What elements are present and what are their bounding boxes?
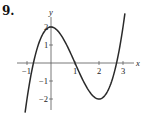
tick-labels: xy−1123−2−112	[22, 7, 140, 104]
y-tick-label: −1	[39, 76, 48, 86]
x-axis-label: x	[135, 58, 140, 68]
y-axis-label: y	[48, 7, 53, 17]
y-tick-label: −2	[39, 94, 48, 104]
x-tick-label: 2	[97, 66, 101, 76]
cubic-function-graph: xy−1123−2−112	[0, 0, 145, 120]
x-tick-label: 3	[121, 66, 125, 76]
x-tick-label: −1	[22, 66, 31, 76]
y-tick-label: 1	[44, 40, 48, 50]
